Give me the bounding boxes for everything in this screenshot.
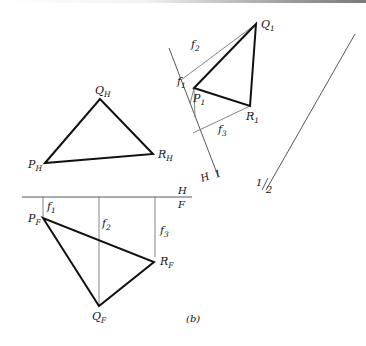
fold-label-h: H — [177, 185, 187, 196]
top-view-triangle: PH QH RH — [27, 84, 173, 173]
label-q-h: QH — [95, 84, 111, 99]
label-p-f: PF — [27, 212, 41, 227]
figure-caption: (b) — [186, 313, 200, 324]
label-p-1: P1 — [192, 92, 205, 107]
front-view-distances: f1 f2 f3 — [43, 197, 169, 306]
descriptive-geometry-diagram: H F H 1 1 2 PH QH RH f1 f2 f3 PF QF RF — [0, 0, 366, 346]
fold-label-h-aux: H — [198, 170, 211, 184]
front-view-triangle: PF QF RF — [27, 212, 174, 325]
label-f3-front: f3 — [159, 224, 169, 239]
label-f3-aux: f3 — [217, 123, 227, 138]
aux-view-triangle: P1 Q1 R1 — [192, 18, 275, 125]
fold-label-f: F — [177, 199, 186, 210]
fold-label-1-left: 1 — [256, 177, 262, 188]
label-r-1: R1 — [245, 110, 259, 125]
label-f1-front: f1 — [46, 200, 56, 215]
label-r-f: RF — [159, 255, 174, 270]
label-f2-front: f2 — [101, 217, 111, 232]
label-q-1: Q1 — [261, 18, 275, 33]
label-r-h: RH — [157, 148, 173, 163]
label-p-h: PH — [27, 158, 42, 173]
label-f2-aux: f2 — [190, 38, 200, 53]
fold-label-1: 1 — [213, 167, 223, 180]
fold-line-1-2: 1 2 — [256, 34, 355, 195]
label-q-f: QF — [92, 310, 107, 325]
fold-label-2: 2 — [265, 184, 272, 195]
aux-view-distances: f2 f1 f3 — [176, 24, 256, 138]
